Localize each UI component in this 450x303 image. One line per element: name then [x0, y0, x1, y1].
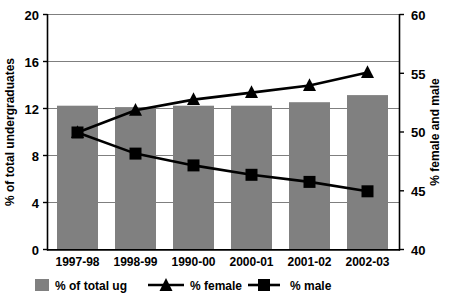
chart-container: 20 16 12 8 4 0 60 55 50 45 40 1997-98 19…: [0, 0, 450, 303]
male-marker-1997-98: [72, 127, 84, 139]
legend-square-icon-male: [258, 279, 270, 291]
bar-2002-03: [347, 95, 388, 250]
right-axis: [400, 14, 405, 251]
right-tick-label-60: 60: [411, 8, 425, 23]
left-axis-title: % of total undergraduates: [3, 58, 17, 206]
legend: % of total ug % female % male: [35, 278, 332, 293]
legend-label-female: % female: [190, 279, 242, 293]
category-label-6: 2002-03: [345, 255, 389, 269]
dual-axis-bar-line-chart: 20 16 12 8 4 0 60 55 50 45 40 1997-98 19…: [0, 0, 450, 303]
category-label-4: 2000-01: [229, 255, 273, 269]
male-marker-2000-01: [246, 169, 258, 181]
left-tick-labels: 20 16 12 8 4 0: [25, 8, 40, 258]
left-tick-label-12: 12: [25, 102, 39, 117]
category-label-3: 1990-00: [171, 255, 215, 269]
category-labels: 1997-98 1998-99 1990-00 2000-01 2001-02 …: [55, 255, 389, 269]
male-marker-2002-03: [362, 185, 374, 197]
male-marker-2001-02: [304, 176, 316, 188]
left-tick-label-0: 0: [32, 243, 39, 258]
bar-1990-00: [173, 106, 214, 250]
category-label-2: 1998-99: [113, 255, 157, 269]
legend-swatch-total-ug: [35, 279, 49, 291]
male-marker-1990-00: [188, 159, 200, 171]
right-tick-labels: 60 55 50 45 40: [411, 8, 425, 258]
right-tick-label-40: 40: [411, 243, 425, 258]
left-axis: [43, 14, 48, 251]
bar-1998-99: [115, 107, 156, 250]
legend-label-male: % male: [290, 279, 332, 293]
left-tick-label-4: 4: [32, 196, 40, 211]
right-axis-title: % female and male: [428, 78, 442, 186]
left-tick-label-20: 20: [25, 8, 39, 23]
right-tick-label-50: 50: [411, 125, 425, 140]
category-label-1: 1997-98: [55, 255, 99, 269]
right-tick-label-55: 55: [411, 67, 425, 82]
legend-label-total-ug: % of total ug: [55, 279, 127, 293]
left-tick-label-16: 16: [25, 55, 39, 70]
category-label-5: 2001-02: [287, 255, 331, 269]
left-tick-label-8: 8: [32, 149, 39, 164]
male-marker-1998-99: [130, 148, 142, 160]
right-tick-label-45: 45: [411, 184, 425, 199]
